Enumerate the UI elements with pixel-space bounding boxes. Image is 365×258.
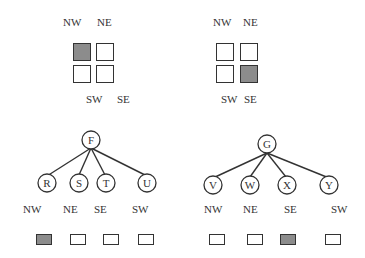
child-label: NE [63,203,78,215]
child-box [138,234,154,245]
node-label: T [103,177,110,189]
child-box [247,234,263,245]
node-label: Y [325,179,333,191]
child-box [103,234,119,245]
child-label: NW [204,203,222,215]
node-label-root: G [263,138,271,150]
node-label: V [209,179,217,191]
node-label: W [245,179,256,191]
child-box [280,234,296,245]
child-label: NE [243,203,258,215]
node-label-root: F [88,134,94,146]
node-label: X [283,179,291,191]
child-box [325,234,341,245]
child-box [70,234,86,245]
child-box [36,234,52,245]
tree-diagrams: F R S T U G V W X Y [0,0,365,258]
child-box [209,234,225,245]
node-label: R [43,177,51,189]
child-label: SE [284,203,297,215]
child-label: SW [132,203,149,215]
child-label: SE [94,203,107,215]
child-label: NW [23,203,41,215]
child-label: SW [331,203,348,215]
node-label: U [143,177,151,189]
node-label: S [76,177,82,189]
